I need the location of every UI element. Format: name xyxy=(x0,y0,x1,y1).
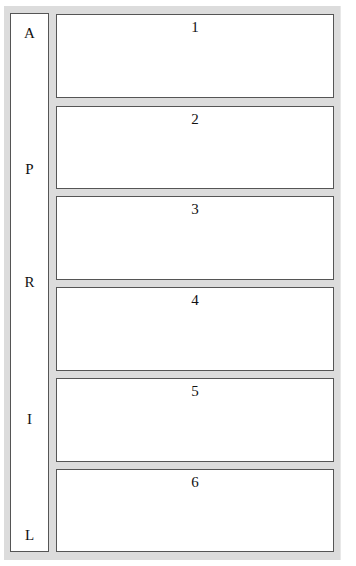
box-number: 1 xyxy=(57,18,333,36)
box-3: 3 xyxy=(56,196,334,280)
side-letter-i: I xyxy=(11,410,48,428)
box-number: 5 xyxy=(57,382,333,400)
box-5: 5 xyxy=(56,378,334,462)
side-letter-a: A xyxy=(11,24,48,42)
box-number: 6 xyxy=(57,473,333,491)
box-1: 1 xyxy=(56,14,334,98)
side-letter-r: R xyxy=(11,273,48,291)
side-column: A P R I L xyxy=(10,13,49,552)
box-number: 3 xyxy=(57,200,333,218)
side-letter-l: L xyxy=(11,526,48,544)
box-number: 4 xyxy=(57,291,333,309)
box-number: 2 xyxy=(57,110,333,128)
box-4: 4 xyxy=(56,287,334,371)
box-6: 6 xyxy=(56,469,334,552)
box-2: 2 xyxy=(56,106,334,189)
side-letter-p: P xyxy=(11,160,48,178)
